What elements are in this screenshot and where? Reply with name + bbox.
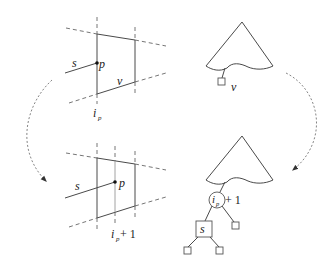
bottom-boundary-dashed-right — [135, 73, 166, 82]
panel-bottom-left-trapezoid: s p i p + 1 — [65, 143, 166, 243]
segment-s — [65, 182, 115, 198]
bottom-boundary-dashed-left — [69, 94, 97, 103]
leaf-node-above — [184, 247, 191, 254]
segment-s — [65, 63, 97, 73]
edge-s-left — [188, 237, 198, 247]
label-leaf-v: v — [231, 80, 237, 94]
trapezoid-tree-diagram: s p v i p s p i p + 1 — [0, 0, 336, 266]
label-s: s — [75, 179, 80, 193]
label-i: i — [93, 106, 96, 120]
label-v: v — [117, 74, 123, 88]
label-node-s: s — [200, 222, 205, 236]
label-plus-one: + 1 — [120, 227, 136, 241]
panel-top-left-trapezoid: s p v i p — [65, 17, 166, 122]
panel-bottom-right-tree: i p + 1 s — [184, 136, 273, 254]
label-i: i — [111, 227, 114, 241]
top-boundary-dashed-left — [66, 28, 97, 34]
top-boundary-segment — [97, 34, 135, 40]
subtree-triangle — [206, 136, 273, 184]
top-boundary-dashed-right — [135, 40, 166, 46]
transition-arrow-left — [27, 80, 52, 181]
subtree-triangle — [206, 22, 273, 70]
top-boundary-segment — [97, 158, 135, 164]
edge-to-s-node — [205, 206, 212, 221]
label-s: s — [72, 56, 77, 70]
bottom-boundary-segment — [97, 82, 135, 94]
edge-to-right-leaf — [222, 206, 234, 222]
edge-s-right — [210, 237, 219, 247]
leaf-node-below — [216, 247, 223, 254]
bottom-boundary-dashed-right — [135, 197, 166, 206]
label-p: p — [98, 57, 105, 71]
label-node-i: i — [212, 193, 215, 205]
top-boundary-dashed-left — [66, 153, 97, 158]
label-node-plus-one: + 1 — [225, 193, 241, 207]
panel-top-right-tree: v — [206, 22, 273, 94]
top-boundary-dashed-right — [135, 164, 166, 170]
leaf-node-v — [218, 78, 225, 85]
leaf-node-right — [232, 222, 239, 229]
label-i-sub: p — [97, 114, 102, 122]
point-p — [113, 180, 117, 184]
transition-arrow-right — [286, 73, 317, 170]
bottom-boundary-segment — [97, 206, 135, 218]
bottom-boundary-dashed-left — [69, 218, 97, 227]
label-p: p — [118, 176, 125, 190]
